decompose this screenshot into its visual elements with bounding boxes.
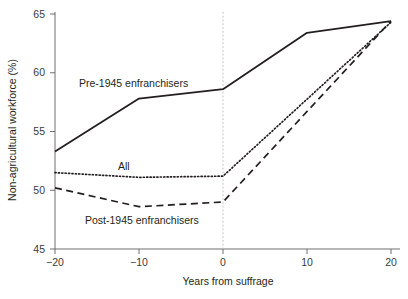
y-tick-label: 45	[33, 243, 45, 255]
series-annotation-label: Post-1945 enfranchisers	[85, 214, 199, 226]
y-tick-label: 65	[33, 8, 45, 20]
y-tick-label: 50	[33, 184, 45, 196]
x-axis-ticks: −20−1001020	[46, 249, 397, 268]
x-tick-label: −20	[46, 256, 64, 268]
x-tick-label: 0	[220, 256, 226, 268]
y-tick-label: 55	[33, 125, 45, 137]
x-tick-label: −10	[130, 256, 148, 268]
series-group	[55, 21, 391, 207]
x-axis-title: Years from suffrage	[182, 275, 273, 287]
y-axis-title: Non-agricultural workforce (%)	[6, 59, 18, 201]
series-annotation-label: All	[118, 160, 130, 172]
x-tick-label: 10	[301, 256, 313, 268]
series-annotation-label: Pre-1945 enfranchisers	[79, 77, 188, 89]
y-tick-label: 60	[33, 66, 45, 78]
line-chart: 4550556065 −20−1001020 Pre-1945 enfranch…	[0, 0, 408, 299]
x-tick-label: 20	[385, 256, 397, 268]
chart-container: 4550556065 −20−1001020 Pre-1945 enfranch…	[0, 0, 408, 299]
series-line-post-1945-enfranchisers	[55, 21, 391, 207]
y-axis-ticks: 4550556065	[33, 8, 55, 255]
